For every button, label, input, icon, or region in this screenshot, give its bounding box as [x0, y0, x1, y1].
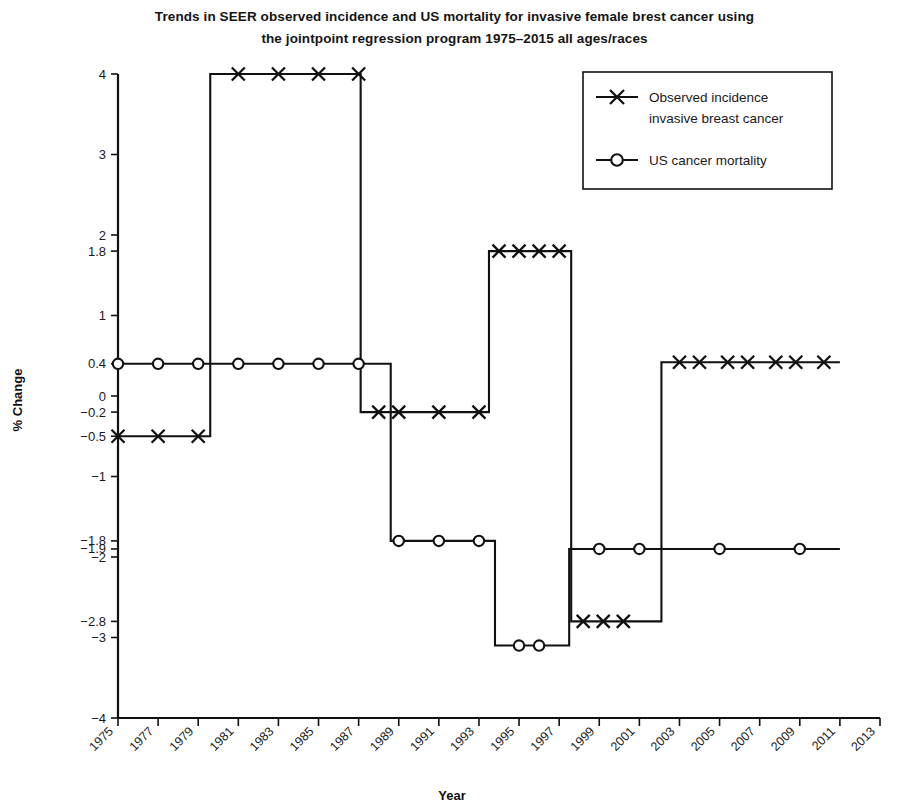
chart-legend: Observed incidenceinvasive breast cancer… [583, 72, 832, 189]
y-tick-label: −0.5 [80, 429, 106, 444]
x-tick-label: 1987 [327, 724, 357, 754]
series-markers [113, 359, 805, 651]
y-tick-label: 3 [99, 147, 106, 162]
y-tick-label: 4 [99, 67, 106, 82]
y-tick-label: 1.8 [88, 244, 106, 259]
chart-container: Trends in SEER observed incidence and US… [0, 0, 909, 812]
x-tick-label: 2007 [728, 724, 758, 754]
y-tick-label: 0.4 [88, 356, 106, 371]
x-axis-label: Year [438, 788, 465, 803]
y-tick-label: 1 [99, 308, 106, 323]
chart-plot-area: 4321.810.40−0.2−0.5−1−1.8−1.9−2−2.8−3−4 … [0, 0, 909, 812]
x-axis-ticks: 1975197719791981198319851987198919911993… [87, 718, 880, 754]
legend-o-marker-icon [611, 154, 623, 166]
x-tick-label: 1985 [287, 724, 317, 754]
o-marker-icon [434, 536, 444, 546]
x-tick-label: 2005 [688, 724, 718, 754]
o-marker-icon [594, 544, 604, 554]
series-line [118, 364, 840, 646]
o-marker-icon [394, 536, 404, 546]
o-marker-icon [795, 544, 805, 554]
y-tick-label: −0.2 [80, 405, 106, 420]
o-marker-icon [714, 544, 724, 554]
o-marker-icon [353, 359, 363, 369]
legend-label: invasive breast cancer [649, 111, 784, 126]
y-tick-label: −2.8 [80, 614, 106, 629]
o-marker-icon [153, 359, 163, 369]
x-tick-label: 2009 [768, 724, 798, 754]
x-tick-label: 2001 [608, 724, 638, 754]
x-tick-label: 1995 [488, 724, 518, 754]
y-tick-label: −2 [91, 550, 106, 565]
x-tick-label: 1989 [367, 724, 397, 754]
o-marker-icon [634, 544, 644, 554]
x-tick-label: 1983 [247, 724, 277, 754]
x-tick-label: 1991 [407, 724, 437, 754]
y-axis-ticks: 4321.810.40−0.2−0.5−1−1.8−1.9−2−2.8−3−4 [80, 67, 118, 726]
y-tick-label: −4 [91, 711, 106, 726]
x-tick-label: 1975 [87, 724, 117, 754]
o-marker-icon [233, 359, 243, 369]
o-marker-icon [474, 536, 484, 546]
o-marker-icon [514, 640, 524, 650]
x-tick-label: 1997 [528, 724, 558, 754]
x-tick-label: 1999 [568, 724, 598, 754]
legend-label: Observed incidence [649, 90, 768, 105]
legend-label: US cancer mortality [649, 153, 767, 168]
x-tick-label: 2003 [648, 724, 678, 754]
x-tick-label: 1979 [167, 724, 197, 754]
o-marker-icon [113, 359, 123, 369]
x-tick-label: 1981 [207, 724, 237, 754]
x-tick-label: 1977 [127, 724, 157, 754]
o-marker-icon [273, 359, 283, 369]
series-2 [113, 359, 840, 651]
y-axis-label: % Change [10, 369, 25, 432]
x-tick-label: 2011 [809, 724, 838, 753]
y-tick-label: −1 [91, 469, 106, 484]
y-tick-label: 2 [99, 228, 106, 243]
x-tick-label: 1993 [448, 724, 478, 754]
x-tick-label: 2013 [849, 724, 879, 754]
o-marker-icon [193, 359, 203, 369]
y-tick-label: 0 [99, 389, 106, 404]
o-marker-icon [313, 359, 323, 369]
o-marker-icon [534, 640, 544, 650]
y-tick-label: −3 [91, 630, 106, 645]
